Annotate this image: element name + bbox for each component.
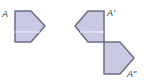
shape-a	[15, 11, 45, 42]
label-a: A	[1, 9, 8, 19]
transformation-diagram: A A' A"	[0, 0, 144, 83]
label-a-prime: A'	[106, 8, 115, 18]
label-a-double-prime: A"	[126, 69, 137, 79]
shape-a-prime	[75, 11, 104, 42]
